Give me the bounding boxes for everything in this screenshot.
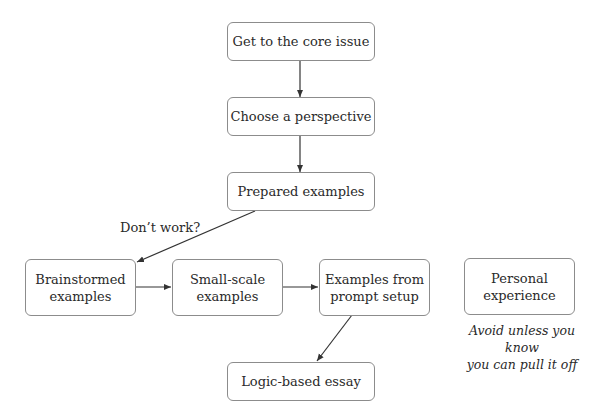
node-perspective-label: Choose a perspective [231,108,372,125]
node-small-scale-line2: examples [197,288,259,305]
node-small-scale-line1: Small-scale [190,271,265,288]
node-prompt-setup-line1: Examples from [325,271,424,288]
node-brainstormed-line1: Brainstormed [35,271,125,288]
node-prepared-examples-label: Prepared examples [237,183,364,200]
node-personal-line2: experience [483,287,555,304]
node-logic-based-essay: Logic-based essay [227,362,375,401]
note-line1: Avoid unless you know [452,322,592,356]
node-brainstormed-examples: Brainstormed examples [25,259,136,316]
arrow-prepared-to-brainstormed [137,211,255,262]
node-personal-experience: Personal experience [464,258,575,315]
node-logic-essay-label: Logic-based essay [241,373,361,390]
node-small-scale-examples: Small-scale examples [172,259,283,316]
node-core-issue-label: Get to the core issue [233,33,370,50]
personal-experience-note: Avoid unless you know you can pull it of… [452,322,592,373]
node-prepared-examples: Prepared examples [227,172,375,211]
node-personal-line1: Personal [491,270,548,287]
node-core-issue: Get to the core issue [227,22,375,61]
node-examples-from-prompt: Examples from prompt setup [319,259,430,316]
node-brainstormed-line2: examples [50,288,112,305]
node-perspective: Choose a perspective [227,97,375,136]
node-prompt-setup-line2: prompt setup [330,288,419,305]
note-line2: you can pull it off [452,356,592,373]
edge-label-dont-work: Don’t work? [120,220,200,235]
arrow-prompt-setup-to-logic-essay [317,315,352,361]
